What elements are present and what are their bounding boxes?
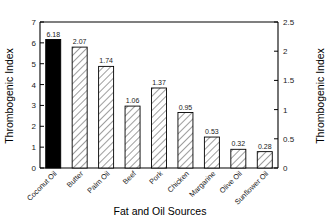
bar-value-label: 1.37	[152, 79, 166, 86]
left-tick-label: 5	[32, 60, 37, 69]
right-tick-label: 1	[283, 106, 288, 115]
bar-value-label: 6.18	[46, 31, 60, 38]
y-axis-title-right: Thrombogenic Index	[314, 47, 326, 143]
bar-value-label: 2.07	[73, 38, 87, 45]
left-tick-label: 3	[32, 101, 37, 110]
bar-value-label: 0.53	[205, 128, 219, 135]
bar	[257, 152, 272, 168]
bar	[46, 40, 61, 168]
bar	[152, 88, 167, 168]
right-tick-label: 0	[283, 164, 288, 173]
x-axis-title: Fat and Oil Sources	[114, 205, 207, 217]
y-axis-title-left: Thrombogenic Index	[3, 47, 15, 143]
right-tick-label: 0.5	[283, 135, 295, 144]
bar-value-label: 0.95	[179, 104, 193, 111]
bar	[178, 113, 193, 168]
bar-value-label: 0.32	[232, 140, 246, 147]
bar-value-label: 0.28	[258, 143, 272, 150]
thrombogenic-index-bar-chart: 01234567 00.511.522.5 6.182.071.741.061.…	[0, 0, 335, 221]
bar-value-label: 1.74	[99, 57, 113, 64]
left-tick-label: 7	[32, 18, 37, 27]
right-tick-label: 2	[283, 47, 288, 56]
bar-value-label: 1.06	[126, 97, 140, 104]
bar	[99, 66, 114, 168]
left-tick-label: 6	[32, 39, 37, 48]
right-tick-label: 1.5	[283, 76, 295, 85]
left-tick-label: 2	[32, 122, 37, 131]
left-tick-label: 1	[32, 143, 37, 152]
bar	[125, 106, 140, 168]
bar	[231, 149, 246, 168]
left-tick-label: 0	[32, 164, 37, 173]
bar	[72, 47, 87, 168]
left-tick-label: 4	[32, 81, 37, 90]
chart-canvas: 01234567 00.511.522.5 6.182.071.741.061.…	[0, 0, 335, 221]
right-tick-label: 2.5	[283, 18, 295, 27]
bar	[204, 137, 219, 168]
